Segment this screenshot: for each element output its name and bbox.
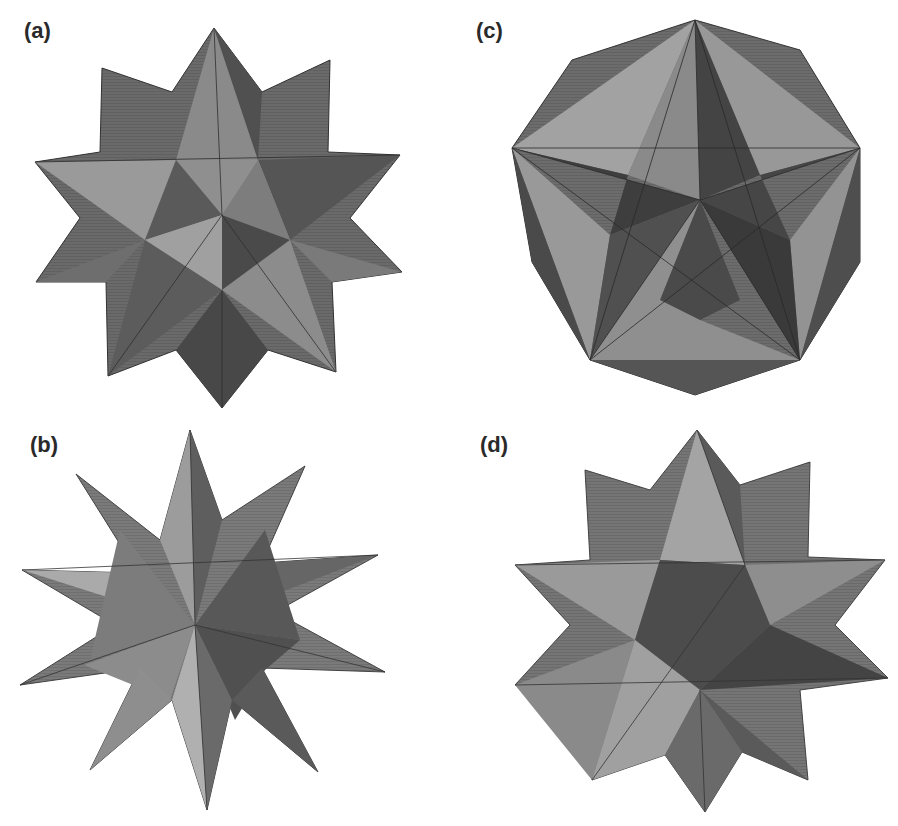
polyhedron-b xyxy=(20,430,385,810)
polyhedron-c xyxy=(512,20,860,395)
polyhedron-a xyxy=(35,28,402,408)
figure-canvas xyxy=(0,0,898,826)
polyhedron-d xyxy=(515,430,888,812)
